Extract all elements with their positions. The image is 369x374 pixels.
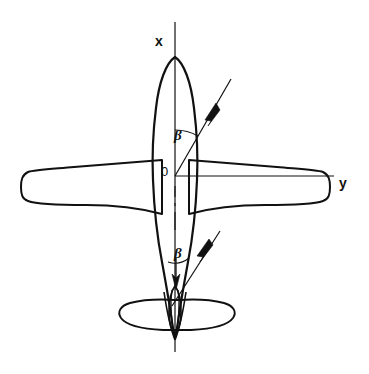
beta-lower-label: β xyxy=(174,246,182,261)
beta-lower-ray xyxy=(172,231,220,306)
left-wing-shape xyxy=(21,160,162,214)
beta-upper-label: β xyxy=(174,128,182,143)
axes-group xyxy=(175,22,334,352)
beta-lower-annotation xyxy=(168,231,220,306)
sideslip-angle-figure: x y 0 β β xyxy=(0,0,369,374)
x-axis-label: x xyxy=(155,34,163,48)
beta-lower-arrowhead xyxy=(197,239,213,262)
beta-upper-arrowhead xyxy=(205,103,220,126)
y-axis-label: y xyxy=(339,176,347,190)
aircraft-diagram-svg xyxy=(0,0,369,374)
origin-label: 0 xyxy=(161,165,168,178)
right-wing-shape xyxy=(189,160,330,214)
